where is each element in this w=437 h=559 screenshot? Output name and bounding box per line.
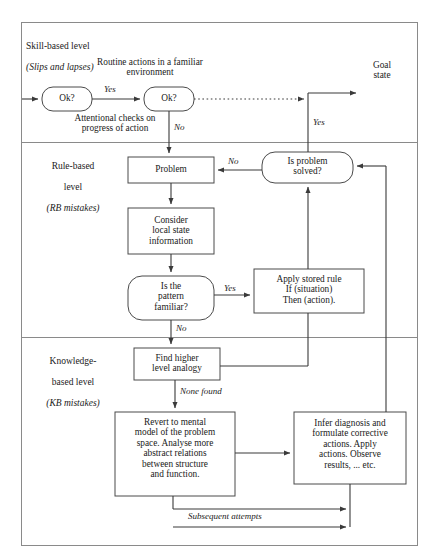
- edge-label-solved-yes: Yes: [313, 117, 325, 127]
- node-apply-stored-rule-label: Apply stored rule If (situation) Then (a…: [254, 274, 364, 305]
- level-caption-knowledge: Knowledge- based level (KB mistakes): [24, 345, 122, 419]
- node-ok2-label: Ok?: [144, 93, 194, 103]
- level-knowledge-line3: (KB mistakes): [24, 398, 122, 409]
- annotation-routine-actions: Routine actions in a familiar environmen…: [55, 57, 245, 78]
- level-knowledge-line1: Knowledge-: [24, 356, 122, 367]
- level-skill-line1: Skill-based level: [26, 41, 146, 52]
- node-revert-mental-model-label: Revert to mental model of the problem sp…: [117, 417, 233, 479]
- edge-label-solved-no: No: [228, 156, 239, 166]
- edge-label-none-found: None found: [180, 386, 222, 396]
- node-ok1-label: Ok?: [42, 93, 92, 103]
- level-knowledge-line2: based level: [24, 377, 122, 388]
- node-infer-diagnosis-label: Infer diagnosis and formulate corrective…: [296, 418, 404, 470]
- level-caption-rule: Rule-based level (RB mistakes): [24, 150, 122, 224]
- edge-label-pattern-yes: Yes: [224, 283, 236, 293]
- node-find-analogy-label: Find higher level analogy: [134, 353, 220, 374]
- level-rule-line1: Rule-based: [24, 161, 122, 172]
- level-rule-line2: level: [24, 182, 122, 193]
- edge-label-ok2-no: No: [174, 122, 185, 132]
- edge-label-ok1-ok2-yes: Yes: [104, 84, 116, 94]
- node-pattern-familiar-label: Is the pattern familiar?: [128, 281, 214, 312]
- node-is-problem-solved-label: Is problem solved?: [262, 156, 353, 177]
- node-consider-local-label: Consider local state information: [128, 215, 214, 246]
- edge-label-subsequent-attempts: Subsequent attempts: [184, 511, 266, 521]
- annotation-attentional-checks: Attentional checks on progress of action: [50, 113, 180, 134]
- flowchart-diagram: Skill-based level (Slips and lapses) Rul…: [0, 0, 437, 559]
- edge-label-pattern-no: No: [176, 323, 187, 333]
- level-rule-line3: (RB mistakes): [24, 203, 122, 214]
- node-goal-state-label: Goal state: [352, 60, 412, 81]
- node-problem-label: Problem: [128, 164, 214, 174]
